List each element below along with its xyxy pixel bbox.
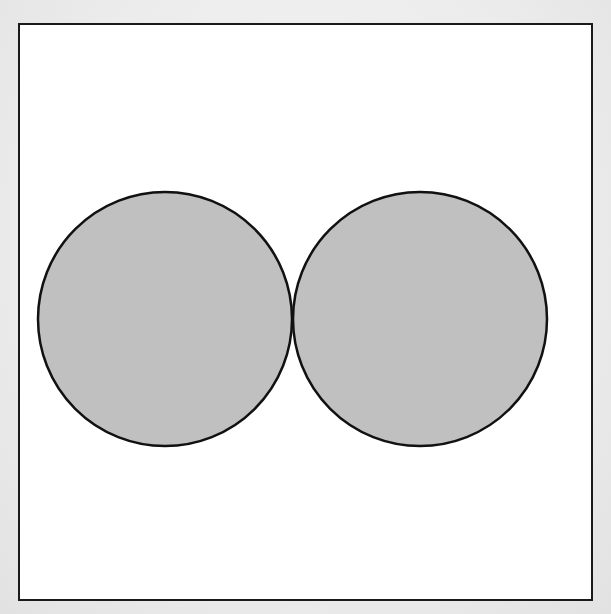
right-circle [293,192,547,446]
left-circle [38,192,292,446]
diagram-canvas [0,0,611,614]
